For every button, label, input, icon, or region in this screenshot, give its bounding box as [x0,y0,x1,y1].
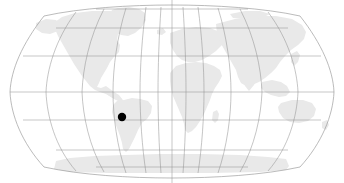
world-locator-map [0,0,344,183]
location-marker-dot[interactable] [118,113,126,121]
map-canvas [0,0,344,183]
land-antarctica [54,154,289,173]
